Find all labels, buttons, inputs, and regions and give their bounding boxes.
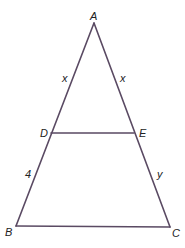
vertex-label-b: B: [5, 226, 12, 238]
vertex-label-e: E: [139, 127, 147, 139]
side-ac: [94, 23, 170, 227]
vertex-label-a: A: [89, 10, 97, 22]
side-label-db: 4: [25, 168, 31, 180]
side-label-ae: x: [119, 72, 126, 84]
triangle-diagram: A D E B C x x 4 y: [0, 0, 185, 248]
side-label-ec: y: [156, 168, 164, 180]
vertex-label-d: D: [40, 127, 48, 139]
side-bc: [16, 226, 170, 227]
vertex-label-c: C: [172, 227, 180, 239]
side-ab: [16, 23, 94, 226]
side-label-ad: x: [61, 72, 68, 84]
